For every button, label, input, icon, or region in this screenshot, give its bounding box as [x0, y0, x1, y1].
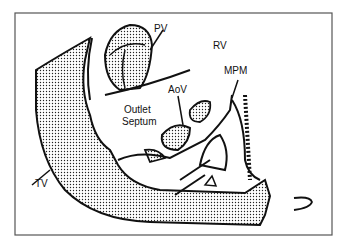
aov-valve [162, 125, 190, 150]
curl [294, 198, 312, 211]
label-rv: RV [213, 40, 227, 51]
label-tv: TV [35, 178, 48, 189]
pv-valve [105, 25, 152, 90]
mpm-arrow [232, 80, 238, 98]
label-septum: Septum [122, 116, 156, 127]
label-aov: AoV [168, 84, 187, 95]
mpm-hatch [245, 95, 250, 180]
heart-diagram [0, 0, 348, 249]
label-pv: PV [154, 23, 167, 34]
aov-arrow [178, 96, 183, 125]
label-mpm: MPM [224, 65, 247, 76]
label-outlet: Outlet [124, 104, 151, 115]
